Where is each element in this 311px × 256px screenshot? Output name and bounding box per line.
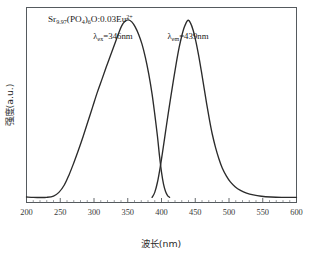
x-tick-label-250: 250 (54, 208, 67, 217)
x-tick-label-350: 350 (121, 208, 134, 217)
emission-spectrum-curve (152, 20, 296, 197)
x-tick-label-550: 550 (256, 208, 269, 217)
excitation-spectrum-curve (27, 20, 170, 198)
x-tick-label-600: 600 (290, 208, 303, 217)
x-axis-tick-labels: 200250300350400450500550600 (20, 208, 303, 217)
x-tick-label-200: 200 (20, 208, 33, 217)
x-axis-title: 波长(nm) (141, 238, 181, 249)
excitation-peak-annotation: λex=346nm (93, 31, 133, 42)
figure-container: 200250300350400450500550600 波长(nm) 强度(a.… (0, 0, 311, 256)
spectrum-chart: 200250300350400450500550600 波长(nm) 强度(a.… (0, 0, 311, 256)
emission-peak-annotation: λem=439nm (167, 31, 208, 42)
x-tick-label-300: 300 (88, 208, 101, 217)
x-tick-label-500: 500 (223, 208, 236, 217)
x-tick-label-450: 450 (189, 208, 202, 217)
y-axis-title: 强度(a.u.) (4, 84, 15, 127)
x-tick-label-400: 400 (155, 208, 168, 217)
sample-formula-annotation: Sr9.97(PO4)6O:0.03Eu2+ (48, 14, 133, 26)
